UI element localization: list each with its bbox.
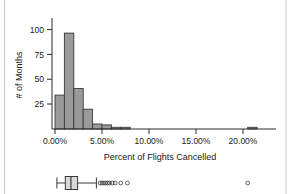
flights-cancelled-figure: 100 75 50 25 # of Months 0.00% 5.00% 10.… [0, 0, 288, 194]
y-axis-title: # of Months [14, 51, 24, 99]
boxplot-outlier [126, 181, 130, 185]
bar-3-4pct [83, 109, 92, 129]
x-tick-label-0: 0.00% [43, 136, 68, 146]
bar-5-6pct [102, 125, 111, 129]
bar-4-5pct [93, 124, 102, 129]
y-tick-label-100: 100 [30, 25, 44, 35]
x-tick-label-15: 15.00% [182, 136, 211, 146]
x-axis-title: Percent of Flights Cancelled [104, 152, 217, 162]
y-tick-label-25: 25 [35, 99, 45, 109]
y-tick-label-50: 50 [35, 74, 45, 84]
boxplot-panel [57, 177, 250, 190]
boxplot-outlier [119, 181, 123, 185]
x-tick-label-20: 20.00% [229, 136, 258, 146]
x-tick-label-10: 10.00% [135, 136, 164, 146]
bar-2-3pct [74, 89, 83, 130]
boxplot-outlier-far [246, 181, 250, 185]
x-tick-label-5: 5.00% [90, 136, 115, 146]
bar-0-1pct [55, 95, 64, 129]
histogram-panel: 100 75 50 25 # of Months 0.00% 5.00% 10.… [14, 18, 276, 162]
y-tick-label-75: 75 [35, 50, 45, 60]
bar-1-2pct [64, 33, 73, 129]
